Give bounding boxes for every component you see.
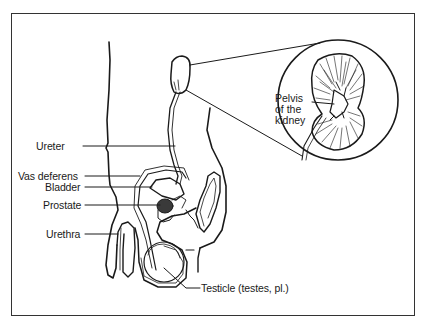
label-pelvis-of-kidney: Pelvis of the kidney [275, 93, 305, 126]
torso-back-outline [200, 108, 226, 248]
label-urethra: Urethra [46, 229, 80, 240]
kidney-hatching [314, 56, 364, 148]
prostate-shape [157, 199, 173, 213]
label-prostate: Prostate [43, 200, 81, 211]
anatomy-illustration [0, 0, 425, 327]
torso-front-outline [106, 42, 118, 278]
label-ureter: Ureter [36, 141, 65, 152]
rectum-shape [196, 172, 220, 232]
label-testicle: Testicle (testes, pl.) [201, 283, 289, 294]
label-vas-deferens: Vas deferens [18, 171, 78, 182]
testicle-shape [144, 242, 184, 282]
kidney-small [171, 56, 190, 94]
label-pelvis-line3: kidney [275, 115, 305, 126]
label-bladder: Bladder [45, 182, 81, 193]
